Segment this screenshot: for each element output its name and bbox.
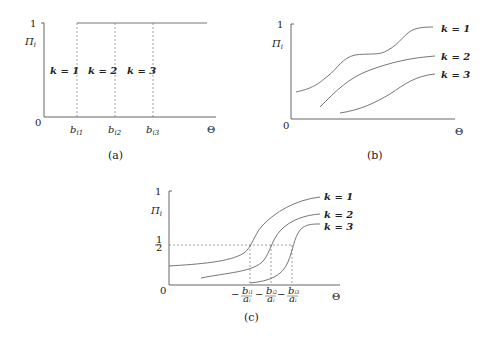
curve-label-k3: k = 3	[441, 69, 470, 80]
svg-text:−: −	[277, 289, 285, 300]
curve-label-k2: k = 2	[441, 51, 470, 62]
x-axis-label: Θ	[207, 124, 215, 135]
y-top-label: 1	[277, 19, 283, 30]
curve-label-k2: k = 2	[324, 209, 353, 220]
panel-c: 1 Πi 1 2 0 − bi1 ai − bi2 ai − bi3 ai k …	[150, 186, 353, 324]
x-tick-bi1-over-ai: − bi1 ai	[231, 285, 253, 304]
x-tick-bi3: bi3	[146, 124, 160, 137]
svg-text:−: −	[255, 289, 263, 300]
y-half-label: 1 2	[155, 234, 162, 253]
region-label-k3: k = 3	[127, 65, 156, 76]
figure-canvas: 1 Πi 0 k = 1 k = 2 k = 3 bi1 bi2 bi3 Θ (…	[0, 0, 489, 340]
caption-a: (a)	[108, 149, 123, 162]
region-label-k1: k = 1	[50, 65, 79, 76]
panel-b: 1 Πi 0 k = 1 k = 2 k = 3 Θ (b)	[271, 19, 470, 162]
caption-b: (b)	[367, 149, 383, 162]
curve-label-k1: k = 1	[324, 191, 353, 202]
curve-label-k3: k = 3	[324, 221, 353, 232]
curve-k3	[250, 224, 320, 283]
region-label-k2: k = 2	[88, 65, 117, 76]
y-top-label: 1	[30, 18, 36, 29]
x-axis-label: Θ	[455, 126, 463, 137]
caption-c: (c)	[244, 311, 259, 324]
x-tick-bi2-over-ai: − bi2 ai	[255, 285, 277, 304]
x-tick-bi3-over-ai: − bi3 ai	[277, 285, 299, 304]
y-axis-label: Πi	[150, 205, 162, 218]
curve-k3	[340, 74, 435, 113]
curve-k1	[296, 27, 433, 92]
curve-k1	[169, 197, 320, 266]
panel-a: 1 Πi 0 k = 1 k = 2 k = 3 bi1 bi2 bi3 Θ (…	[24, 18, 216, 162]
x-axis-label: Θ	[332, 291, 340, 302]
origin-label: 0	[283, 120, 289, 131]
curve-k2	[320, 56, 435, 107]
x-tick-bi1: bi1	[70, 124, 83, 137]
x-tick-bi2: bi2	[108, 124, 122, 137]
y-axis-label: Πi	[271, 38, 283, 51]
curve-label-k1: k = 1	[441, 23, 470, 34]
origin-label: 0	[35, 117, 41, 128]
origin-label: 0	[160, 285, 166, 296]
y-top-label: 1	[155, 186, 161, 197]
curve-k2	[201, 214, 320, 278]
svg-text:2: 2	[156, 242, 162, 253]
svg-text:−: −	[231, 289, 239, 300]
y-axis-label: Πi	[24, 36, 36, 49]
